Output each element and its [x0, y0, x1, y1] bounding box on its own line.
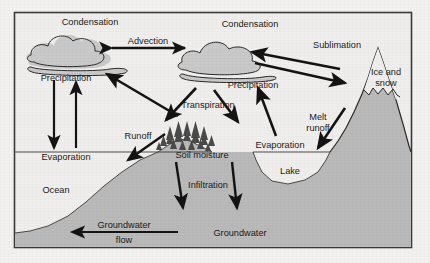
label-infiltration: Infiltration	[188, 180, 228, 190]
label-ice-and-snow-line1: Ice and	[371, 67, 401, 77]
label-condensation-right: Condensation	[222, 19, 279, 29]
label-precipitation-left: Precipitation	[41, 73, 92, 83]
label-evaporation-lake: Evaporation	[255, 140, 304, 150]
water-cycle-diagram: Condensation Condensation Advection Subl…	[0, 0, 430, 263]
label-ice-and-snow-line2: snow	[375, 78, 397, 88]
label-melt-runoff-line2: runoff	[306, 123, 330, 133]
label-condensation-left: Condensation	[62, 17, 119, 27]
label-sublimation: Sublimation	[313, 40, 361, 50]
label-lake: Lake	[280, 166, 300, 176]
label-runoff: Runoff	[125, 131, 152, 141]
label-groundwater-flow-line2: flow	[116, 235, 133, 245]
diagram-canvas: Condensation Condensation Advection Subl…	[0, 0, 430, 263]
label-transpiration: Transpiration	[181, 100, 234, 110]
label-advection: Advection	[128, 36, 168, 46]
label-groundwater-flow-line1: Groundwater	[97, 220, 150, 230]
label-evaporation-ocean: Evaporation	[41, 152, 90, 162]
label-melt-runoff-line1: Melt	[309, 112, 327, 122]
label-groundwater: Groundwater	[213, 228, 266, 238]
label-soil-moisture: Soil moisture	[175, 150, 228, 160]
label-ocean: Ocean	[42, 185, 69, 195]
label-precipitation-right: Precipitation	[228, 80, 279, 90]
